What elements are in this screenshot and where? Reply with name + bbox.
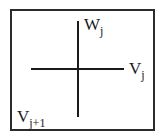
label-w-j: Wj	[84, 16, 103, 33]
vertical-axis-w-j	[77, 21, 79, 117]
label-v-base: V	[129, 59, 141, 78]
label-v-next-base: V	[17, 107, 29, 126]
label-w-base: W	[84, 15, 100, 34]
label-w-sub: j	[100, 24, 103, 38]
label-v-sub: j	[141, 68, 144, 82]
label-v-next-sub: j+1	[29, 116, 45, 130]
label-v-j-plus-1: Vj+1	[17, 108, 45, 125]
label-v-j: Vj	[129, 60, 145, 77]
